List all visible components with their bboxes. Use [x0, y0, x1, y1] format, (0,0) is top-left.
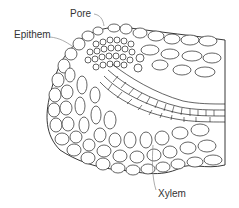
epithem-cells	[85, 37, 144, 72]
label-xylem: Xylem	[158, 189, 186, 199]
label-pore: Pore	[70, 9, 91, 19]
hydathode-diagram: Pore Epithem Xylem	[0, 0, 239, 208]
mesophyll-cells	[60, 45, 221, 163]
pore-leader-line	[94, 14, 104, 26]
label-epithem: Epithem	[14, 30, 51, 40]
epithem-leader-line	[50, 37, 72, 46]
